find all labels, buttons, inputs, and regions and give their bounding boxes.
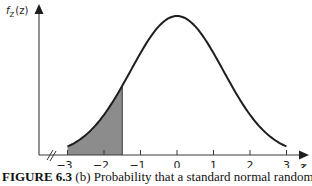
figure-caption: FIGURE 6.3 (b) Probability that a standa… bbox=[2, 169, 312, 185]
normal-density-chart: −3−2−10123 fZ(z) z bbox=[0, 0, 312, 168]
x-tick-label: 3 bbox=[283, 159, 290, 168]
shaded-probability-region bbox=[68, 86, 123, 155]
x-tick-label: 1 bbox=[210, 159, 217, 168]
x-axis-arrowhead bbox=[299, 151, 309, 160]
x-tick-label: −1 bbox=[129, 159, 145, 168]
caption-text: (b) Probability that a standard normal r… bbox=[75, 169, 312, 184]
x-tick-label: 0 bbox=[174, 159, 181, 168]
y-axis-arrowhead bbox=[35, 4, 44, 14]
x-axis-label: z bbox=[299, 160, 307, 168]
x-tick-label: 2 bbox=[247, 159, 254, 168]
figure-number: FIGURE 6.3 bbox=[2, 169, 72, 184]
y-axis-label: fZ(z) bbox=[6, 5, 28, 19]
x-tick-label: −2 bbox=[93, 159, 109, 168]
x-tick-label: −3 bbox=[56, 159, 72, 168]
